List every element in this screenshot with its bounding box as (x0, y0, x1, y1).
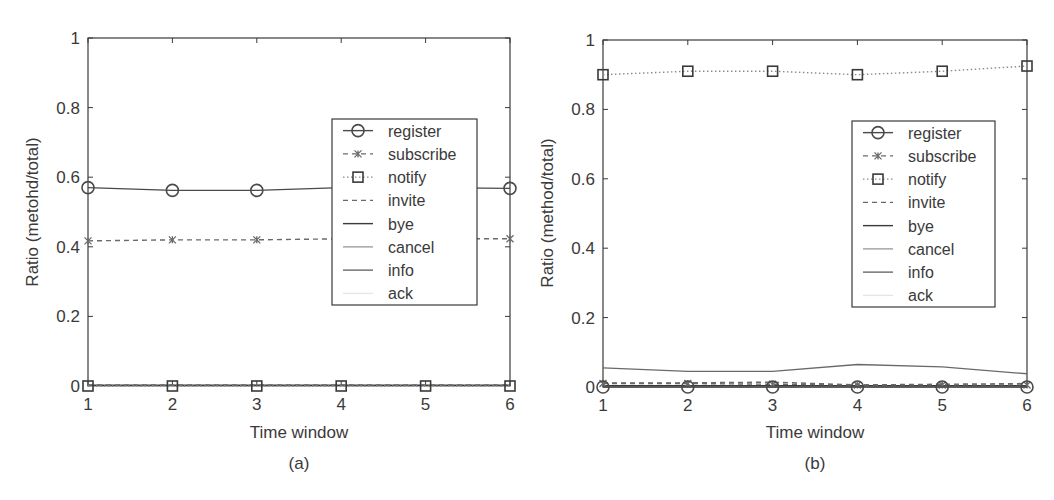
chart-b: 00.20.40.60.81123456registersubscribenot… (0, 0, 1054, 500)
square-marker (852, 70, 862, 80)
y-tick-label: 0.4 (571, 239, 595, 258)
legend-label: info (908, 264, 934, 281)
figure: 00.20.40.60.81123456registersubscribenot… (0, 0, 1054, 500)
legend-label: invite (908, 194, 945, 211)
x-tick-label: 2 (683, 396, 692, 415)
x-tick-label: 6 (1022, 396, 1031, 415)
series-info (603, 364, 1027, 373)
y-tick-label: 0.8 (571, 100, 595, 119)
x-axis-label-b: Time window (766, 423, 865, 442)
x-tick-label: 5 (937, 396, 946, 415)
plot-area-b: 00.20.40.60.81123456registersubscribenot… (571, 31, 1033, 415)
legend-item-register: register (863, 125, 962, 142)
legend-label: ack (908, 287, 934, 304)
series-register (597, 381, 1033, 393)
legend-label: subscribe (908, 148, 977, 165)
y-tick-label: 0 (586, 378, 595, 397)
square-marker (937, 66, 947, 76)
x-tick-label: 3 (768, 396, 777, 415)
x-tick-label: 4 (853, 396, 862, 415)
legend-label: register (908, 125, 962, 142)
series-notify (598, 61, 1032, 80)
legend-label: bye (908, 218, 934, 235)
y-axis-label-b: Ratio (method/total) (538, 138, 557, 287)
x-tick-label: 1 (598, 396, 607, 415)
y-tick-label: 0.6 (571, 170, 595, 189)
y-tick-label: 1 (586, 31, 595, 50)
legend-label: cancel (908, 241, 954, 258)
legend-label: notify (908, 171, 946, 188)
panel-label-b: (b) (805, 454, 826, 473)
legend: registersubscribenotifyinvitebyecancelin… (852, 121, 995, 307)
y-tick-label: 0.2 (571, 309, 595, 328)
